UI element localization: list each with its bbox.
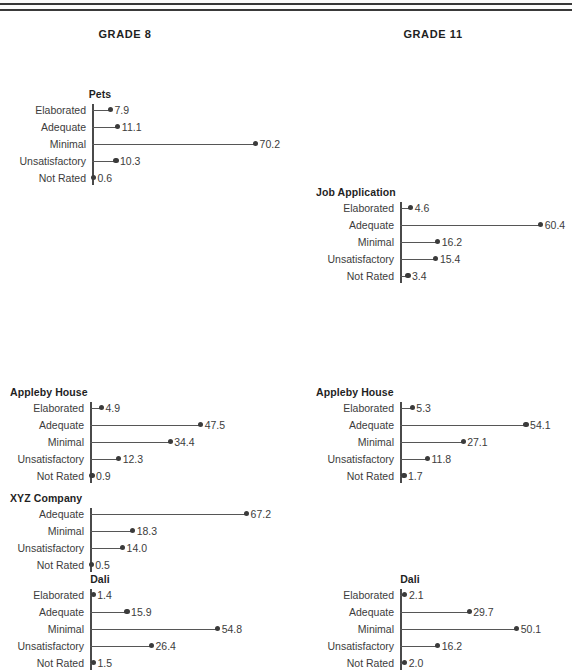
value-dot xyxy=(402,660,407,665)
panel-title: XYZ Company xyxy=(10,492,82,504)
data-row: Elaborated5.3 xyxy=(0,400,572,417)
value-label: 60.4 xyxy=(545,217,565,234)
data-row: Elaborated2.1 xyxy=(0,587,572,604)
data-row: Minimal18.3 xyxy=(0,523,572,540)
panel-title: Dali xyxy=(400,573,420,585)
value-stem xyxy=(400,259,436,260)
panel-title: Appleby House xyxy=(10,386,88,398)
category-label: Not Rated xyxy=(37,557,84,574)
value-stem xyxy=(400,646,438,647)
value-label: 7.9 xyxy=(114,102,129,119)
value-stem xyxy=(92,144,256,145)
category-label: Adequate xyxy=(39,506,84,523)
plot-area: Elaborated7.9Adequate11.1Minimal70.2Unsa… xyxy=(0,102,572,187)
value-dot xyxy=(435,643,440,648)
category-label: Unsatisfactory xyxy=(327,638,394,655)
data-row: Elaborated4.6 xyxy=(0,200,572,217)
value-dot xyxy=(402,592,407,597)
value-dot xyxy=(91,175,96,180)
value-label: 16.2 xyxy=(442,234,462,251)
value-label: 11.1 xyxy=(122,119,142,136)
value-dot xyxy=(108,107,113,112)
value-dot xyxy=(461,439,466,444)
data-row: Adequate54.1 xyxy=(0,417,572,434)
value-label: 0.5 xyxy=(95,557,110,574)
value-stem xyxy=(92,161,116,162)
column-header-grade-11: GRADE 11 xyxy=(403,28,462,40)
value-stem xyxy=(400,442,463,443)
data-row: Not Rated2.0 xyxy=(0,655,572,672)
plot-area: Elaborated5.3Adequate54.1Minimal27.1Unsa… xyxy=(0,400,572,485)
plot-area: Elaborated4.6Adequate60.4Minimal16.2Unsa… xyxy=(0,200,572,285)
value-label: 15.4 xyxy=(440,251,460,268)
category-label: Not Rated xyxy=(347,268,394,285)
data-row: Unsatisfactory16.2 xyxy=(0,638,572,655)
data-row: Adequate11.1 xyxy=(0,119,572,136)
category-label: Elaborated xyxy=(343,400,394,417)
value-label: 14.0 xyxy=(127,540,147,557)
value-stem xyxy=(400,242,438,243)
category-label: Not Rated xyxy=(39,170,86,187)
value-stem xyxy=(400,225,541,226)
value-label: 27.1 xyxy=(467,434,487,451)
category-label: Adequate xyxy=(349,217,394,234)
data-row: Minimal50.1 xyxy=(0,621,572,638)
value-dot xyxy=(410,405,415,410)
top-rule-lower xyxy=(0,9,572,11)
category-label: Minimal xyxy=(50,136,86,153)
category-label: Adequate xyxy=(349,604,394,621)
value-dot xyxy=(113,158,118,163)
value-dot xyxy=(538,222,543,227)
category-label: Not Rated xyxy=(347,655,394,672)
data-row: Minimal16.2 xyxy=(0,234,572,251)
category-label: Unsatisfactory xyxy=(327,251,394,268)
value-stem xyxy=(90,531,133,532)
value-dot xyxy=(467,609,472,614)
value-label: 54.1 xyxy=(530,417,550,434)
panel-title: Pets xyxy=(89,88,112,100)
category-label: Minimal xyxy=(358,621,394,638)
value-stem xyxy=(90,514,247,515)
value-stem xyxy=(90,548,123,549)
value-label: 70.2 xyxy=(260,136,280,153)
value-label: 4.6 xyxy=(415,200,430,217)
data-row: Unsatisfactory15.4 xyxy=(0,251,572,268)
value-stem xyxy=(400,612,469,613)
category-label: Adequate xyxy=(41,119,86,136)
value-label: 2.1 xyxy=(409,587,424,604)
value-dot xyxy=(433,256,438,261)
value-stem xyxy=(92,127,118,128)
value-dot xyxy=(89,562,94,567)
data-row: Adequate60.4 xyxy=(0,217,572,234)
category-label: Unsatisfactory xyxy=(17,540,84,557)
data-row: Unsatisfactory10.3 xyxy=(0,153,572,170)
value-label: 0.6 xyxy=(97,170,112,187)
value-stem xyxy=(400,629,517,630)
category-label: Not Rated xyxy=(347,468,394,485)
data-row: Not Rated0.5 xyxy=(0,557,572,574)
value-label: 3.4 xyxy=(412,268,427,285)
value-label: 67.2 xyxy=(251,506,271,523)
panel-title: Appleby House xyxy=(316,386,394,398)
panel-title: Job Application xyxy=(316,186,396,198)
data-row: Not Rated3.4 xyxy=(0,268,572,285)
value-dot xyxy=(130,528,135,533)
value-label: 1.7 xyxy=(408,468,423,485)
data-row: Adequate29.7 xyxy=(0,604,572,621)
value-label: 50.1 xyxy=(521,621,541,638)
value-label: 16.2 xyxy=(442,638,462,655)
data-row: Not Rated0.6 xyxy=(0,170,572,187)
value-stem xyxy=(400,459,427,460)
data-row: Unsatisfactory11.8 xyxy=(0,451,572,468)
column-header-grade-8: GRADE 8 xyxy=(98,28,151,40)
value-dot xyxy=(253,141,258,146)
category-label: Adequate xyxy=(349,417,394,434)
value-dot xyxy=(425,456,430,461)
category-label: Elaborated xyxy=(35,102,86,119)
data-row: Elaborated7.9 xyxy=(0,102,572,119)
value-label: 29.7 xyxy=(473,604,493,621)
category-label: Unsatisfactory xyxy=(19,153,86,170)
value-label: 5.3 xyxy=(416,400,431,417)
category-label: Elaborated xyxy=(343,587,394,604)
